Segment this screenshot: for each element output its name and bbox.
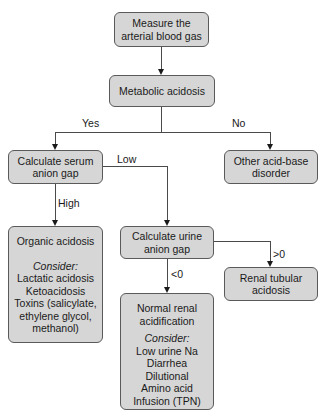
- edge-gt0-right: [214, 241, 271, 242]
- node-measure-abg: Measure the arterial blood gas: [114, 12, 209, 47]
- edge-abg-to-metabolic: [161, 46, 162, 69]
- edge-label-no: No: [232, 117, 245, 129]
- node-item: Low urine Na: [136, 345, 198, 358]
- node-item: Amino acid: [141, 382, 193, 395]
- edge-no-down: [270, 132, 271, 144]
- edge-lt0-down: [167, 258, 168, 287]
- edge-gt0-down: [270, 241, 271, 261]
- node-item: Lactatic acidosis: [17, 272, 94, 285]
- edge-metabolic-down: [161, 107, 162, 132]
- node-text: Metabolic acidosis: [119, 85, 205, 98]
- node-title: Organic acidosis: [17, 235, 95, 248]
- node-item: Toxins (salicylate,: [14, 297, 96, 310]
- node-text: Other acid-base: [234, 155, 309, 168]
- node-item: ethylene glycol,: [19, 310, 91, 323]
- node-other-disorder: Other acid-base disorder: [224, 150, 318, 184]
- node-title: Normal renal: [137, 302, 197, 315]
- node-text: anion gap: [32, 167, 78, 180]
- edge-low-down: [167, 166, 168, 220]
- edge-label-lt0: <0: [171, 268, 183, 280]
- node-item: Diarrhea: [147, 357, 187, 370]
- node-metabolic-acidosis: Metabolic acidosis: [109, 75, 215, 107]
- node-text: disorder: [252, 167, 290, 180]
- consider-label: Consider:: [33, 260, 78, 273]
- edge-label-high: High: [58, 197, 80, 209]
- consider-label: Consider:: [145, 332, 190, 345]
- node-item: Ketoacidosis: [26, 285, 86, 298]
- edge-label-yes: Yes: [82, 117, 99, 129]
- edge-yes-down: [55, 132, 56, 144]
- node-text: arterial blood gas: [121, 30, 202, 43]
- edge-low-right: [103, 166, 167, 167]
- node-item: methanol): [32, 322, 79, 335]
- node-title: acidification: [140, 315, 195, 328]
- node-text: acidosis: [252, 284, 290, 297]
- node-serum-anion-gap: Calculate serum anion gap: [8, 150, 103, 184]
- node-text: Renal tubular: [240, 272, 302, 285]
- edge-label-gt0: >0: [273, 248, 285, 260]
- edge-yes-no-branch: [55, 132, 271, 133]
- node-text: Calculate urine: [132, 230, 202, 243]
- node-text: Calculate serum: [18, 155, 94, 168]
- node-organic-acidosis: Organic acidosis Consider: Lactatic acid…: [8, 226, 103, 343]
- node-item: Dilutional: [145, 370, 188, 383]
- node-normal-renal-acidification: Normal renal acidification Consider: Low…: [120, 293, 214, 410]
- node-text: Measure the: [132, 17, 190, 30]
- node-renal-tubular-acidosis: Renal tubular acidosis: [224, 267, 318, 301]
- node-urine-anion-gap: Calculate urine anion gap: [120, 226, 214, 259]
- node-text: anion gap: [144, 243, 190, 256]
- edge-high-down: [55, 183, 56, 220]
- node-item: Infusion (TPN): [133, 395, 201, 408]
- edge-label-low: Low: [117, 153, 136, 165]
